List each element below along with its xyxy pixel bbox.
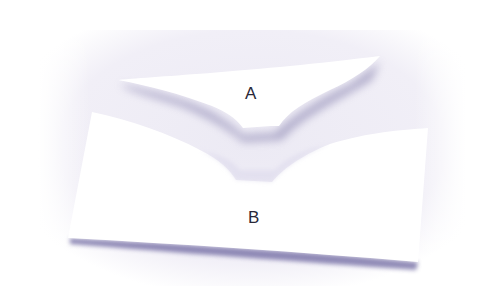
shape-a-label: A [245, 84, 256, 104]
photo-scene [0, 0, 496, 297]
shape-b-label: B [248, 208, 259, 228]
illusion-photo [0, 0, 496, 297]
